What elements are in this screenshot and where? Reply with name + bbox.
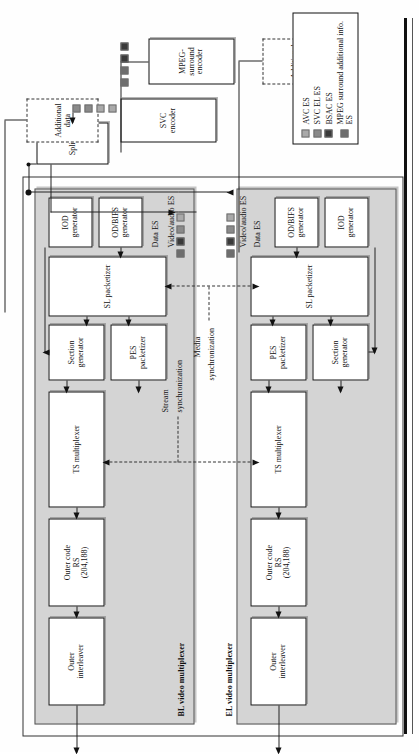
el-arrowhead-sec: [327, 319, 333, 326]
bl-swatch-mps: [176, 249, 184, 257]
el-section-generator-label: Sectiongenerator: [331, 336, 349, 368]
legend-label-avc-es: AVC ES: [301, 97, 310, 124]
bl-od-bifs-generator: OD/BIFSgenerator: [98, 197, 142, 247]
feed-bl-video-arrowhead: [168, 210, 175, 216]
bl-output-line: [76, 705, 77, 752]
bl-arrowhead-sec: [83, 319, 89, 326]
stream-sync-label-line1: Stream: [160, 389, 169, 412]
media-sync-text2: synchronization: [206, 327, 215, 380]
bl-multiplexer-label: BL video multiplexer: [176, 642, 185, 716]
legend-swatch-svc-el-es: [313, 129, 321, 137]
legend-label-svc-el-es: SVC EL ES: [312, 86, 321, 124]
bl-data-es-label: Data ES: [150, 220, 159, 247]
el-output-arrowhead: [275, 747, 281, 754]
svc-swatch-svcel-2: [72, 104, 80, 112]
el-swatch-bsac: [226, 237, 234, 245]
media-sync-label-line2: synchronization: [206, 327, 215, 380]
bl-pes-packetizer: PESpacketizer: [110, 324, 166, 380]
el-arrowhead-ts-sec: [337, 386, 343, 393]
bl-arrowhead-odbifs: [117, 251, 123, 258]
legend-item-1: SVC EL ES: [312, 19, 321, 137]
el-outer-interleaver: Outerinterleaver: [250, 617, 306, 705]
bl-arrowhead-oi: [73, 611, 79, 618]
media-sync-arrowhead-bottom: [252, 284, 259, 290]
stream-sync-arrowhead-top: [102, 460, 109, 466]
bl-iod-generator: IODgenerator: [48, 197, 92, 247]
splitter-out-v2: [50, 211, 178, 212]
el-sl-packetizer: SL packetizer: [250, 256, 368, 316]
el-pes-packetizer: PESpacketizer: [250, 324, 306, 380]
legend-box: AVC ES SVC EL ES BSAC ES MPEG surround a…: [292, 12, 358, 144]
el-swatch-mps: [226, 249, 234, 257]
el-iod-link-h: [374, 247, 375, 352]
svc-swatch-avc-1: [108, 104, 116, 112]
legend-item-0: AVC ES: [301, 19, 310, 137]
el-arrowhead-oi: [275, 611, 281, 618]
legend-item-3: MPEG surround additional info. ES: [335, 19, 353, 137]
el-od-bifs-generator: OD/BIFSgenerator: [274, 197, 318, 247]
legend-item-2: BSAC ES: [324, 19, 333, 137]
bl-outer-interleaver: Outerinterleaver: [48, 617, 104, 705]
bl-swatch-bsac: [176, 237, 184, 245]
svc-encoder: SVC encoder: [120, 98, 216, 142]
bl-ts-multiplexer: TS multiplexer: [48, 391, 104, 507]
additional-data-lower-line-h: [238, 61, 239, 252]
bl-section-generator: Sectiongenerator: [48, 324, 104, 380]
junction-dot-bl: [25, 189, 31, 195]
additional-data-lower-line: [238, 60, 262, 61]
el-arrowhead-ts-pes: [265, 386, 271, 393]
feed-el-video: [178, 191, 228, 192]
el-sl-packetizer-label: SL packetizer: [305, 263, 314, 309]
legend-swatch-bsac-es: [324, 129, 332, 137]
el-outer-code: Outer codeRS(204,188): [250, 518, 306, 606]
el-od-bifs-generator-label: OD/BIFSgenerator: [287, 206, 305, 239]
el-ts-multiplexer: TS multiplexer: [250, 391, 306, 507]
bl-pes-packetizer-label: PESpacketizer: [129, 335, 147, 370]
splitter-out-h2: [50, 164, 51, 212]
additional-data-upper-line: [4, 119, 26, 120]
bl-outer-code-label: Outer codeRS(204,188): [63, 543, 90, 580]
mps-swatch-4: [120, 42, 128, 50]
feed-bl-video: [178, 211, 196, 212]
el-section-generator: Sectiongenerator: [312, 324, 368, 380]
mps-swatch-1: [120, 78, 128, 86]
el-ts-multiplexer-label: TS multiplexer: [274, 424, 283, 474]
el-arrowhead-odbifs: [293, 251, 299, 258]
el-arrowhead-iod: [371, 347, 377, 354]
el-swatch-avc: [226, 213, 234, 221]
bl-ts-multiplexer-label: TS multiplexer: [72, 424, 81, 474]
bl-arrowhead-ts-pes: [135, 386, 141, 393]
stream-sync-text2: synchronization: [174, 359, 183, 412]
stream-sync-stub: [177, 416, 178, 462]
el-iod-generator: IODgenerator: [324, 197, 368, 247]
svc-swatch-svcel-1: [84, 104, 92, 112]
mps-swatch-2: [120, 66, 128, 74]
bl-arrowhead-pes: [125, 319, 131, 326]
el-data-es-label: Data ES: [252, 220, 261, 247]
additional-data-upper-line-h: [4, 120, 5, 312]
bl-output-arrowhead: [73, 747, 79, 754]
bl-arrowhead-ts-sec: [63, 386, 69, 393]
bl-sl-packetizer-label: SL packetizer: [103, 263, 112, 309]
legend-label-mpeg-surround-es: MPEG surround additional info. ES: [335, 19, 353, 124]
bl-section-generator-label: Sectiongenerator: [67, 336, 85, 368]
splitter-out-h1: [28, 164, 29, 192]
stream-sync-text1: Stream: [160, 389, 169, 412]
bl-swatch-avc: [176, 213, 184, 221]
legend-label-bsac-es: BSAC ES: [324, 92, 333, 124]
svc-swatch-avc-2: [96, 104, 104, 112]
mps-swatch-3: [120, 54, 128, 62]
legend-swatch-avc-es: [301, 129, 309, 137]
bl-outer-code: Outer codeRS(204,188): [48, 518, 104, 606]
legend-swatch-mpeg-surround-es: [340, 129, 348, 137]
el-pes-packetizer-label: PESpacketizer: [269, 335, 287, 370]
svc-to-splitter-arrowhead: [69, 117, 75, 124]
el-iod-generator-label: IODgenerator: [337, 206, 355, 238]
bl-arrowhead-iod: [42, 350, 49, 356]
stream-sync-arrowhead-bottom: [252, 460, 259, 466]
stream-sync-label-line2: synchronization: [174, 359, 183, 412]
mpeg-surround-encoder-label: MPEG-surroundencoder: [178, 46, 205, 76]
el-output-line: [278, 705, 279, 752]
